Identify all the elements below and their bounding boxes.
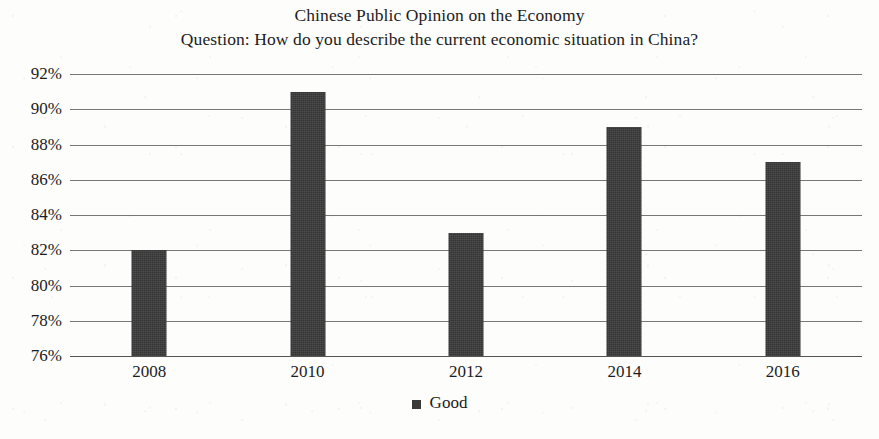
y-tick-label-90: 90% [0,100,62,117]
bar-slot-2012 [387,74,545,356]
chart-page: Chinese Public Opinion on the Economy Qu… [0,0,879,439]
chart-legend: Good [0,394,879,412]
title-block: Chinese Public Opinion on the Economy Qu… [0,3,879,51]
plot-area [70,74,862,356]
x-tick-label-2008: 2008 [70,362,228,382]
chart-subtitle: Question: How do you describe the curren… [0,27,879,51]
x-tick-label-2016: 2016 [704,362,862,382]
chart-title: Chinese Public Opinion on the Economy [0,3,879,27]
bar-series-good [70,74,862,356]
y-tick-label-92: 92% [0,65,62,82]
x-tick-label-2014: 2014 [545,362,703,382]
bar-slot-2008 [70,74,228,356]
bar-slot-2014 [545,74,703,356]
bar-2010[interactable] [290,92,325,356]
gridline-76 [70,356,862,357]
x-tick-label-2010: 2010 [228,362,386,382]
y-tick-label-80: 80% [0,277,62,294]
y-tick-label-84: 84% [0,206,62,223]
y-tick-label-88: 88% [0,136,62,153]
y-tick-label-78: 78% [0,312,62,329]
bar-2016[interactable] [765,162,800,356]
y-tick-label-82: 82% [0,241,62,258]
x-tick-label-2012: 2012 [387,362,545,382]
x-axis-labels: 20082010201220142016 [70,362,862,382]
y-tick-label-76: 76% [0,347,62,364]
bar-2012[interactable] [449,233,484,356]
bar-2014[interactable] [607,127,642,356]
legend-label: Good [430,394,468,412]
legend-swatch-icon [412,400,421,409]
bar-slot-2010 [228,74,386,356]
bar-2008[interactable] [132,250,167,356]
bar-slot-2016 [704,74,862,356]
y-tick-label-86: 86% [0,171,62,188]
y-axis-labels: 92%90%88%86%84%82%80%78%76% [0,74,62,356]
